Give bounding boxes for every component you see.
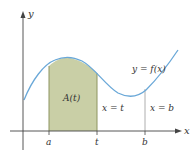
- tick-label-t: t: [95, 137, 99, 147]
- tick-label-b: b: [142, 137, 148, 147]
- function-label: y = f(x): [131, 64, 166, 74]
- area-function-diagram: y x y = f(x) A(t) x = t x = b a t b: [0, 0, 193, 155]
- x-axis-arrow-icon: [175, 129, 182, 134]
- function-curve: [24, 50, 178, 100]
- x-axis-label: x: [184, 125, 190, 136]
- area-label: A(t): [62, 93, 81, 103]
- tick-label-a: a: [46, 137, 51, 147]
- line-t-label: x = t: [102, 103, 124, 113]
- line-b-label: x = b: [150, 103, 174, 113]
- y-axis-arrow-icon: [21, 11, 26, 18]
- y-axis-label: y: [27, 8, 34, 19]
